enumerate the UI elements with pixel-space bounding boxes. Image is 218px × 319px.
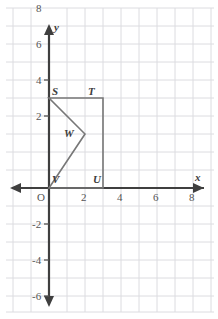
x-tick-label-2: 2	[81, 192, 87, 203]
y-axis-name: y	[54, 22, 59, 33]
y-tick-label-neg6: -6	[32, 291, 41, 302]
origin-label: O	[37, 192, 45, 203]
y-tick-label-6: 6	[36, 39, 42, 50]
x-axis-arrow-left	[10, 183, 21, 193]
vertex-label-t: T	[88, 86, 95, 97]
x-tick-label-4: 4	[117, 192, 123, 203]
grid-lines	[6, 8, 214, 312]
y-tick-label-2: 2	[36, 111, 42, 122]
y-tick-label-neg4: -4	[32, 255, 41, 266]
vertex-label-v: V	[52, 174, 59, 185]
y-tick-label-4: 4	[36, 75, 42, 86]
x-axis-name: x	[195, 172, 201, 183]
x-tick-label-8: 8	[189, 192, 195, 203]
vertex-label-w: W	[64, 128, 74, 139]
coordinate-plane-figure: 2 4 6 8 O 2 4 6 8 -2 -4 -6 x y S T U V W	[0, 0, 218, 319]
x-tick-label-6: 6	[153, 192, 159, 203]
coordinate-plane-svg	[0, 0, 218, 319]
y-tick-label-neg2: -2	[32, 219, 41, 230]
vertex-label-s: S	[52, 86, 58, 97]
y-axis-arrow-down	[44, 296, 54, 307]
vertex-label-u: U	[93, 174, 101, 185]
y-tick-label-8: 8	[36, 3, 42, 14]
